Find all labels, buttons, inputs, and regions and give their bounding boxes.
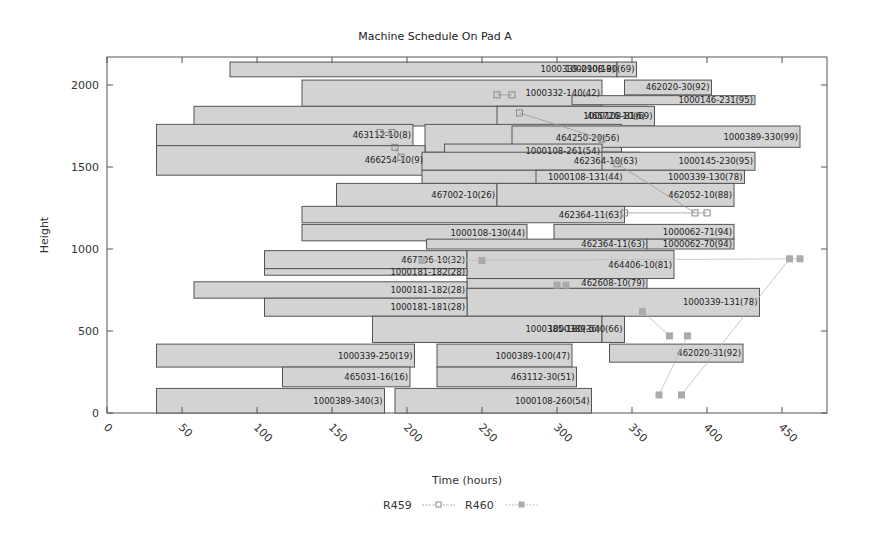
x-tick-label: 450 — [776, 421, 800, 445]
bar-label: 1000108-81(69) — [583, 111, 652, 121]
filled-square-marker-icon — [554, 282, 560, 288]
bar-label: 465031-16(16) — [344, 372, 408, 382]
bar-label: 1000181-181(28) — [390, 302, 465, 312]
bar-label: 462052-10(88) — [668, 190, 732, 200]
x-tick-label: 100 — [251, 421, 275, 445]
bar-label: 1000108-130(44) — [450, 228, 525, 238]
x-tick-label: 400 — [701, 421, 725, 445]
bar-label: 1000389-100(47) — [495, 351, 570, 361]
x-tick-label: 250 — [476, 421, 500, 445]
y-tick-label: 500 — [78, 325, 99, 338]
y-tick-label: 2000 — [71, 79, 99, 92]
x-tick-label: 300 — [551, 421, 575, 445]
legend: R459 R460 — [383, 499, 538, 512]
bar-label: 1000389-540(66) — [548, 324, 623, 334]
bar-label: 1000332-140(42) — [525, 88, 600, 98]
bar-label: 1000145-230(95) — [678, 156, 753, 166]
bar-label: 1000181-182(28) — [390, 285, 465, 295]
open-square-marker-icon — [436, 502, 441, 507]
x-tick-label: 200 — [401, 421, 425, 445]
legend-label-r460: R460 — [465, 499, 494, 512]
x-tick-label: 150 — [326, 421, 350, 445]
bar-label: 1000062-71(94) — [663, 227, 732, 237]
chart-title: Machine Schedule On Pad A — [358, 30, 512, 43]
x-tick-label: 50 — [176, 421, 195, 440]
bar-label: 1000181-182(28) — [390, 267, 465, 277]
bar-label: 463112-30(51) — [511, 372, 575, 382]
bar-label: 467002-10(26) — [431, 190, 495, 200]
y-tick-label: 0 — [92, 407, 99, 420]
bar-label: 1000108-261(54) — [525, 146, 600, 156]
filled-square-marker-icon — [640, 308, 646, 314]
bar-label: 462020-30(92) — [646, 82, 710, 92]
x-axis-label: Time (hours) — [431, 474, 502, 487]
bar-label: 463112-10(8) — [353, 130, 411, 140]
bar-label: 466254-10(9) — [365, 155, 423, 165]
y-tick-label: 1000 — [71, 243, 99, 256]
bar-label: 462364-10(63) — [574, 156, 638, 166]
filled-square-marker-icon — [656, 392, 662, 398]
filled-square-marker-icon — [667, 333, 673, 339]
bar-label: 1000389-330(99) — [723, 132, 798, 142]
bar-label: 1000339-250(19) — [338, 351, 413, 361]
legend-label-r459: R459 — [383, 499, 412, 512]
bar-label: 1000389-340(3) — [313, 396, 382, 406]
filled-square-marker-icon — [563, 282, 569, 288]
x-tick-label: 0 — [101, 421, 115, 435]
bar-label: 462364-11(63) — [559, 210, 623, 220]
filled-square-marker-icon — [679, 392, 685, 398]
filled-square-marker-icon — [519, 502, 524, 507]
filled-square-marker-icon — [685, 333, 691, 339]
x-tick-label: 350 — [626, 421, 650, 445]
y-axis-label: Height — [38, 216, 51, 253]
bar-label: 1000146-231(95) — [678, 95, 753, 105]
filled-square-marker-icon — [479, 257, 485, 263]
bar-label: 1000339-131(78) — [683, 297, 758, 307]
bar-label: 1000108-260(54) — [515, 396, 590, 406]
filled-square-marker-icon — [419, 257, 425, 263]
bar-label: 462608-10(79) — [581, 278, 645, 288]
bar-label: 1000062-70(94) — [663, 239, 732, 249]
bar-label: 462020-31(92) — [677, 348, 741, 358]
bar-label: 1000108-131(44) — [548, 172, 623, 182]
bar-label: 464406-10(81) — [608, 260, 672, 270]
bar-label: 1000339-130(78) — [668, 172, 743, 182]
y-tick-label: 1500 — [71, 161, 99, 174]
bar-label: 1000108-80(69) — [565, 64, 634, 74]
bar-label: 467706-10(32) — [401, 255, 465, 265]
bar-label: 462364-11(63) — [581, 239, 645, 249]
machine-schedule-chart: Machine Schedule On Pad A 1000339-290(19… — [0, 0, 870, 534]
filled-square-marker-icon — [797, 256, 803, 262]
filled-square-marker-icon — [787, 256, 793, 262]
